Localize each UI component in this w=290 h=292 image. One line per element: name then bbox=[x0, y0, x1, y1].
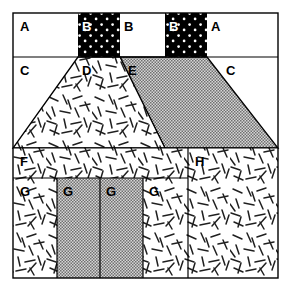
figure-root: A B B B A C D E C F H G G G G bbox=[0, 0, 290, 292]
label-b-center: B bbox=[124, 19, 133, 34]
label-e-trapezoid: E bbox=[128, 63, 137, 78]
label-h: H bbox=[195, 154, 204, 169]
label-f: F bbox=[20, 154, 28, 169]
label-b-left-dotted: B bbox=[82, 19, 91, 34]
label-d-trapezoid: D bbox=[82, 63, 91, 78]
label-c-left: C bbox=[20, 63, 30, 78]
label-a-left: A bbox=[20, 19, 30, 34]
label-c-right: C bbox=[226, 63, 236, 78]
label-g-2: G bbox=[63, 184, 73, 199]
label-a-right: A bbox=[211, 19, 221, 34]
label-g-4: G bbox=[149, 184, 159, 199]
label-g-3: G bbox=[106, 184, 116, 199]
label-b-right-dotted: B bbox=[169, 19, 178, 34]
label-g-1: G bbox=[20, 184, 30, 199]
cross-section-diagram: A B B B A C D E C F H G G G G bbox=[0, 0, 290, 292]
region-f bbox=[13, 148, 188, 178]
